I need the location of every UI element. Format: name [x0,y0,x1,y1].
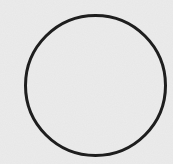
paper-canvas [0,0,173,164]
circle-diagram [0,0,173,164]
